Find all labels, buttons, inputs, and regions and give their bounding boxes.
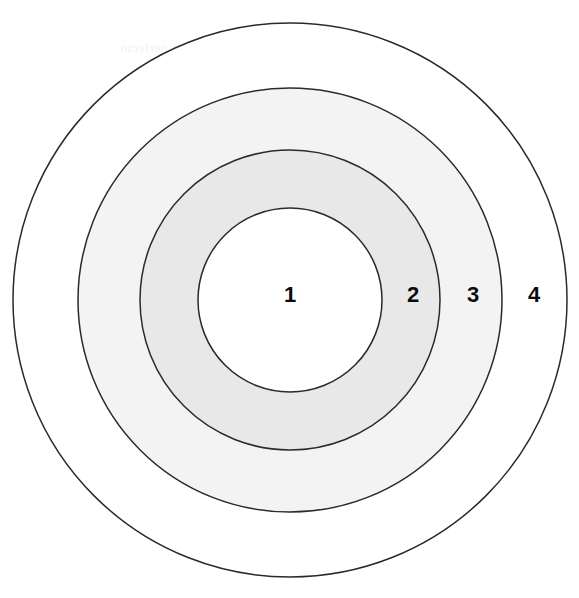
concentric-circles-figure: aus nam alternae consequat cum perfectoe… bbox=[0, 0, 579, 598]
zone-label-2: 2 bbox=[407, 284, 419, 306]
zone-label-3: 3 bbox=[467, 284, 479, 306]
zone-label-4: 4 bbox=[528, 284, 540, 306]
zone-label-1: 1 bbox=[284, 284, 296, 306]
